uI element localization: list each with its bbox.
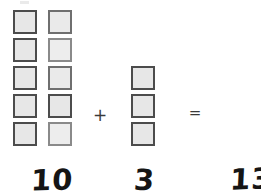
block-square [131,122,155,146]
sum-numeral: 13 [229,164,261,194]
block-square [131,94,155,118]
right-addend-numeral: 3 [133,166,156,195]
equals-operator: = [185,106,205,121]
left-addend-numeral: 10 [30,165,74,195]
block-square [131,66,155,90]
worksheet-canvas: + = 10 3 13 [0,0,261,196]
